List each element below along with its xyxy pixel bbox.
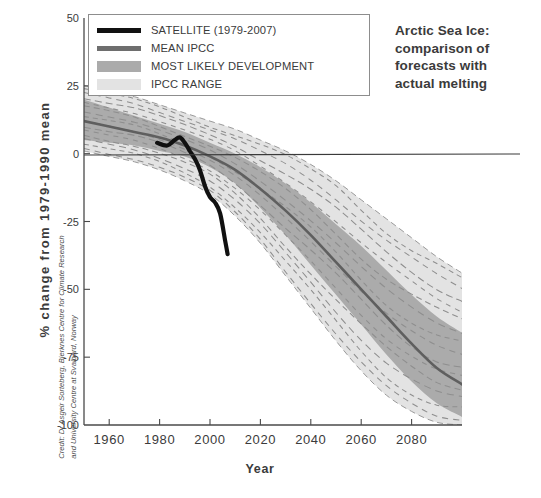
legend-item-satellite: SATELLITE (1979-2007) [97,21,361,39]
legend-swatch-most-likely [97,61,141,72]
chart-figure: 50250-25-50-75-100 196019802000202020402… [0,0,541,498]
title-line-2: comparison of [395,40,535,58]
legend-label-most-likely: MOST LIKELY DEVELOPMENT [151,60,314,72]
legend-label-satellite: SATELLITE (1979-2007) [151,24,276,36]
legend-swatch-ipcc-range [97,79,141,90]
x-axis-tick-label: 1960 [94,432,125,447]
x-axis-tick-label: 2020 [245,432,276,447]
legend-swatch-mean-ipcc [97,46,141,51]
y-axis-tick-label: 0 [73,148,79,160]
x-axis-label: Year [200,462,320,476]
y-axis-tick-label: 25 [67,80,79,92]
title-line-4: actual melting [395,75,535,93]
x-axis-tick-label: 2040 [295,432,326,447]
legend-swatch-satellite [97,28,141,33]
title-line-3: forecasts with [395,57,535,75]
legend-item-ipcc-range: IPCC RANGE [97,75,361,93]
chart-legend: SATELLITE (1979-2007) MEAN IPCC MOST LIK… [88,14,370,96]
legend-item-most-likely: MOST LIKELY DEVELOPMENT [97,57,361,75]
legend-label-mean-ipcc: MEAN IPCC [151,42,215,54]
y-axis-label: % change from 1979-1990 mean [37,80,52,360]
page-title: Arctic Sea Ice: comparison of forecasts … [395,22,535,92]
title-line-1: Arctic Sea Ice: [395,22,535,40]
x-axis-tick-label: 2080 [396,432,427,447]
x-axis-tick-label: 2000 [194,432,225,447]
legend-label-ipcc-range: IPCC RANGE [151,78,222,90]
legend-item-mean-ipcc: MEAN IPCC [97,39,361,57]
credit-text: Credit: Dr Asgeir Sorteberg, Bjerknes Ce… [56,229,80,459]
x-axis-ticks: 1960198020002020204020602080 [94,419,428,447]
x-axis-tick-label: 1980 [144,432,175,447]
x-axis-tick-label: 2060 [346,432,377,447]
y-axis-tick-label: -25 [63,216,79,228]
y-axis-tick-label: 50 [67,12,79,24]
